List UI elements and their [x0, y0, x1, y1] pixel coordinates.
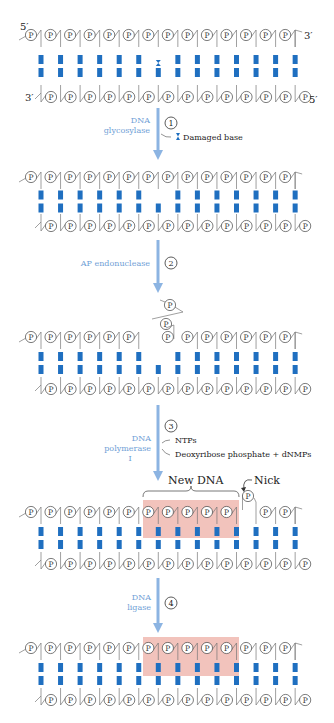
base-pair: [175, 352, 180, 374]
svg-text:P: P: [48, 696, 53, 705]
three-prime-top-right: 3′: [304, 30, 313, 41]
svg-text:P: P: [204, 31, 209, 40]
phosphate-icon: P: [202, 558, 213, 569]
svg-text:P: P: [88, 222, 93, 231]
phosphate-icon: P: [163, 383, 174, 394]
phosphate-icon: P: [45, 383, 56, 394]
base-pair: [39, 55, 44, 77]
svg-text:P: P: [283, 93, 288, 102]
svg-text:P: P: [165, 333, 170, 342]
svg-text:P: P: [244, 560, 249, 569]
phosphate-icon: P: [242, 490, 253, 501]
svg-text:P: P: [68, 173, 73, 182]
nick-callout: Nick: [241, 474, 280, 492]
svg-text:P: P: [28, 31, 33, 40]
phosphate-icon: P: [221, 91, 232, 102]
base-pair: [214, 352, 219, 374]
svg-text:P: P: [87, 644, 92, 653]
phosphate-icon: P: [260, 642, 271, 653]
phosphate-icon: P: [260, 220, 271, 231]
phosphate-icon: P: [260, 694, 271, 705]
phosphate-icon: P: [241, 383, 252, 394]
base-pair: [254, 352, 259, 374]
dna-duplex: PPPPPPPPPPPPPPPPPPPPPPPPPPPP: [19, 29, 311, 102]
phosphate-icon: P: [221, 331, 232, 342]
step-number: 3: [168, 422, 173, 431]
svg-text:P: P: [165, 31, 170, 40]
svg-text:P: P: [224, 508, 229, 517]
svg-text:P: P: [244, 173, 249, 182]
phosphate-icon: P: [221, 383, 232, 394]
svg-text:P: P: [185, 31, 190, 40]
base-pair: [293, 663, 298, 685]
svg-text:P: P: [264, 696, 269, 705]
base-pair: [117, 191, 122, 213]
phosphate-icon: P: [182, 171, 193, 182]
bottom-strand: PPPPPPPPPPPPPP: [35, 552, 311, 570]
base-pair: [117, 527, 122, 549]
phosphate-icon: P: [65, 506, 76, 517]
svg-text:P: P: [205, 385, 210, 394]
nick-label: Nick: [254, 474, 280, 487]
enzyme-label: DNA: [132, 593, 151, 602]
base-pair: [273, 663, 278, 685]
base-pair: [39, 352, 44, 374]
base-pair: [156, 365, 161, 374]
new-dna-label: New DNA: [168, 474, 224, 487]
step-4: DNA ligase 4: [127, 578, 177, 628]
three-prime-bottom-left: 3′: [25, 92, 34, 103]
phosphate-icon: P: [124, 91, 135, 102]
phosphate-icon: P: [25, 642, 36, 653]
svg-text:P: P: [303, 560, 308, 569]
phosphate-icon: P: [65, 171, 76, 182]
phosphate-icon: P: [280, 383, 291, 394]
svg-text:P: P: [28, 508, 33, 517]
base-pair: [97, 352, 102, 374]
svg-text:P: P: [107, 31, 112, 40]
svg-text:P: P: [283, 222, 288, 231]
phosphate-icon: P: [221, 558, 232, 569]
phosphate-icon: P: [65, 694, 76, 705]
phosphate-icon: P: [104, 642, 115, 653]
svg-text:P: P: [107, 333, 112, 342]
svg-text:P: P: [87, 31, 92, 40]
svg-text:P: P: [48, 644, 53, 653]
svg-text:P: P: [127, 696, 132, 705]
phosphate-icon: P: [124, 558, 135, 569]
svg-text:P: P: [244, 333, 249, 342]
svg-text:P: P: [283, 385, 288, 394]
svg-text:P: P: [205, 560, 210, 569]
base-pair: [254, 663, 259, 685]
phosphate-icon: P: [163, 220, 174, 231]
phosphate-icon: P: [123, 331, 134, 342]
phosphate-icon: P: [182, 383, 193, 394]
phosphate-icon: P: [182, 91, 193, 102]
base-pair: [117, 352, 122, 374]
phosphate-icon: P: [280, 642, 291, 653]
phosphate-icon: P: [280, 29, 291, 40]
phosphate-icon: P: [182, 558, 193, 569]
svg-text:P: P: [48, 173, 53, 182]
svg-text:P: P: [68, 93, 73, 102]
phosphate-icon: P: [143, 220, 154, 231]
svg-text:P: P: [264, 385, 269, 394]
phosphate-icon: P: [143, 91, 154, 102]
output-arrow-icon: [162, 449, 170, 455]
svg-text:P: P: [146, 644, 151, 653]
svg-text:P: P: [303, 696, 308, 705]
phosphate-icon: P: [104, 171, 115, 182]
svg-text:P: P: [146, 696, 151, 705]
base-pair: [273, 191, 278, 213]
base-pair: [273, 352, 278, 374]
base-pair: [117, 663, 122, 685]
svg-text:P: P: [167, 301, 172, 310]
svg-text:P: P: [146, 560, 151, 569]
svg-text:P: P: [127, 93, 132, 102]
svg-text:P: P: [185, 508, 190, 517]
annotation: Deoxyribose phosphate + dNMPs: [175, 450, 311, 459]
svg-text:P: P: [126, 644, 131, 653]
svg-text:P: P: [166, 696, 171, 705]
svg-text:P: P: [263, 644, 268, 653]
phosphate-icon: P: [162, 506, 173, 517]
svg-text:P: P: [166, 560, 171, 569]
